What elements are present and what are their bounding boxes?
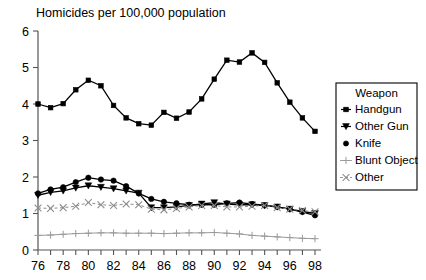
data-point-square [250, 51, 255, 56]
chart-title: Homicides per 100,000 population [36, 6, 226, 20]
homicides-line-chart: Homicides per 100,000 population 0123456… [0, 0, 426, 280]
x-tick-label: 92 [233, 259, 247, 273]
data-point-square [136, 121, 141, 126]
data-point-square [99, 83, 104, 88]
data-point-circle [123, 183, 128, 188]
data-point-square [86, 78, 91, 83]
x-tick-label: 90 [207, 259, 221, 273]
data-point-square [300, 116, 305, 121]
data-point-circle [35, 191, 40, 196]
data-point-square [344, 107, 349, 112]
legend-item-label: Blunt Object [355, 154, 418, 166]
data-point-square [212, 77, 217, 82]
legend-item-label: Handgun [355, 103, 402, 115]
data-point-circle [149, 196, 154, 201]
x-tick-label: 96 [283, 259, 297, 273]
y-tick-label: 3 [22, 134, 29, 148]
x-tick-label: 80 [81, 259, 95, 273]
x-tick-label: 98 [308, 259, 322, 273]
data-point-square [187, 110, 192, 115]
data-point-square [73, 87, 78, 92]
data-point-square [124, 116, 129, 121]
data-point-square [162, 110, 167, 115]
y-tick-label: 1 [22, 207, 29, 221]
data-point-circle [60, 185, 65, 190]
y-tick-label: 2 [22, 171, 29, 185]
data-point-circle [343, 141, 348, 146]
x-tick-label: 94 [258, 259, 272, 273]
x-tick-label: 78 [56, 259, 70, 273]
data-point-square [288, 100, 293, 105]
data-point-circle [48, 187, 53, 192]
x-tick-label: 82 [107, 259, 121, 273]
data-point-circle [86, 175, 91, 180]
data-point-circle [111, 178, 116, 183]
legend-item-label: Other Gun [355, 120, 409, 132]
data-point-square [237, 60, 242, 65]
y-tick-label: 0 [22, 244, 29, 258]
legend-item-label: Other [355, 171, 384, 183]
data-point-square [262, 60, 267, 65]
legend-item-label: Knife [355, 137, 381, 149]
data-point-square [275, 81, 280, 86]
data-point-circle [174, 201, 179, 206]
chart-container: Homicides per 100,000 population 0123456… [0, 0, 426, 280]
legend-title: Weapon [355, 87, 398, 99]
data-point-circle [98, 177, 103, 182]
y-tick-label: 6 [22, 25, 29, 39]
data-point-square [174, 116, 179, 121]
data-point-square [48, 105, 53, 110]
data-point-square [36, 102, 41, 107]
data-point-circle [161, 199, 166, 204]
x-tick-label: 84 [132, 259, 146, 273]
x-tick-label: 86 [157, 259, 171, 273]
data-point-circle [73, 179, 78, 184]
y-tick-label: 4 [22, 98, 29, 112]
chart-legend: WeaponHandgunOther GunKnifeBlunt ObjectO… [336, 83, 418, 190]
data-point-square [225, 58, 230, 63]
data-point-square [313, 129, 318, 134]
data-point-circle [136, 191, 141, 196]
y-tick-label: 5 [22, 61, 29, 75]
data-point-square [61, 101, 66, 106]
data-point-square [149, 123, 154, 128]
data-point-square [111, 103, 116, 108]
x-tick-label: 88 [182, 259, 196, 273]
x-tick-label: 76 [31, 259, 45, 273]
data-point-square [199, 97, 204, 102]
